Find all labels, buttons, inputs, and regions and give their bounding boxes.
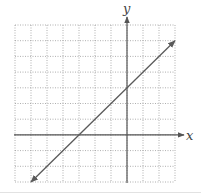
line-y-equals-x-plus-3 bbox=[31, 41, 175, 182]
grid-lines bbox=[15, 25, 175, 182]
plotted-line bbox=[31, 41, 175, 182]
y-axis-label: y bbox=[123, 2, 130, 15]
x-axis-label: x bbox=[186, 129, 193, 142]
coordinate-plane bbox=[0, 0, 201, 194]
bottom-divider bbox=[0, 192, 201, 193]
axes bbox=[14, 17, 184, 183]
